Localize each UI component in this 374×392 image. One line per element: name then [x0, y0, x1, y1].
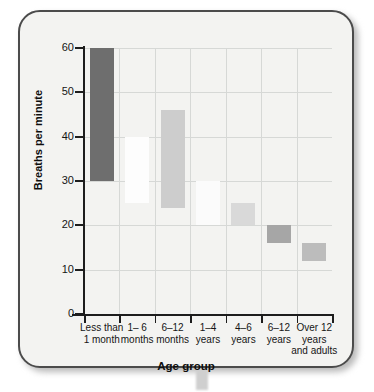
y-axis-tick: [75, 313, 84, 315]
x-axis-category-label: Over 12yearsand adults: [290, 322, 339, 357]
x-axis-category-label-line: and adults: [290, 345, 339, 357]
bar: [90, 48, 114, 181]
gridline-horizontal: [84, 137, 332, 138]
bar: [161, 110, 185, 208]
gridline-vertical: [261, 48, 262, 314]
gridline-vertical: [155, 48, 156, 314]
y-axis-title: Breaths per minute: [32, 75, 44, 205]
gridline-horizontal: [84, 270, 332, 271]
x-axis-line: [72, 314, 334, 316]
x-axis-category-label-line: years: [290, 334, 339, 346]
y-axis-tick-label: 30: [48, 175, 74, 186]
plot-area: [84, 48, 332, 314]
gridline-horizontal: [84, 225, 332, 226]
y-axis-tick-label: 40: [48, 131, 74, 142]
gridline-vertical: [190, 48, 191, 314]
gridline-vertical: [119, 48, 120, 314]
y-axis-tick: [75, 47, 84, 49]
y-axis-tick: [75, 136, 84, 138]
gridline-vertical: [297, 48, 298, 314]
bar: [267, 225, 291, 243]
y-axis-tick-label: 20: [48, 219, 74, 230]
chart-figure: 0102030405060 Less than1 month1– 6months…: [0, 0, 374, 392]
bar: [302, 243, 326, 261]
y-axis-tick: [75, 269, 84, 271]
y-axis-tick: [75, 224, 84, 226]
gridline-horizontal: [84, 48, 332, 49]
gridline-vertical: [226, 48, 227, 314]
y-axis-tick-label: 60: [48, 42, 74, 53]
gridline-horizontal: [84, 92, 332, 93]
chart-card: 0102030405060 Less than1 month1– 6months…: [18, 10, 354, 368]
x-axis-category-label-line: Over 12: [290, 322, 339, 334]
bar: [231, 203, 255, 225]
y-axis-tick-label: 50: [48, 86, 74, 97]
y-axis-tick: [75, 180, 84, 182]
y-axis-tick-label: 0: [48, 308, 74, 319]
y-axis-tick-label: 10: [48, 264, 74, 275]
bar: [196, 181, 220, 225]
bar: [125, 137, 149, 204]
x-axis-title: Age group: [20, 360, 352, 372]
y-axis-tick: [75, 91, 84, 93]
